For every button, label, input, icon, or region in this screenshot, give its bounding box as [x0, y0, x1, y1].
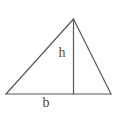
triangle-diagram-figure: h b: [0, 0, 139, 118]
base-label: b: [43, 95, 50, 110]
triangle-diagram-canvas: h b: [0, 0, 139, 118]
diagram-background: [0, 0, 139, 118]
height-label: h: [59, 45, 66, 60]
